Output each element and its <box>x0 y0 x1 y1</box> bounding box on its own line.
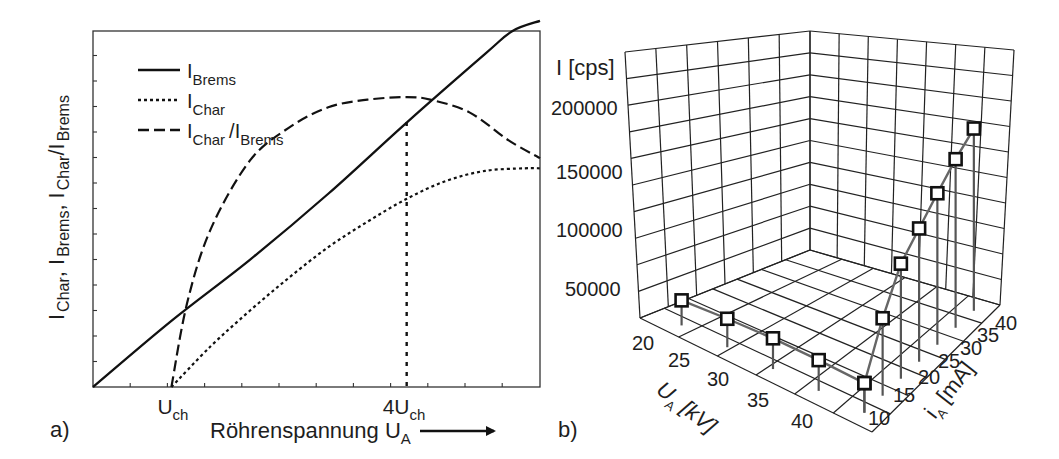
grid-line <box>679 259 842 337</box>
legend-label: IChar <box>187 90 225 118</box>
x-tick-label: 25 <box>668 349 690 371</box>
grid-line <box>810 31 1014 50</box>
x-tick-label: 35 <box>747 389 769 411</box>
x-tick-labels: 2025303540 <box>632 332 813 432</box>
data-marker <box>931 187 943 199</box>
x-axis-label: Röhrenspannung UA <box>210 418 411 447</box>
data-lines <box>682 129 974 384</box>
plot-curves <box>93 21 540 387</box>
z-tick-label: 50000 <box>565 278 621 300</box>
grid-line <box>1000 50 1014 305</box>
chart-panel-b: 50000100000150000200000 2025303540 10152… <box>551 31 1017 442</box>
grid-line <box>810 141 1007 178</box>
x-tick-label: Uch <box>157 395 188 423</box>
x-tick-label: 20 <box>632 332 654 354</box>
legend-label: IBrems <box>187 60 236 88</box>
curve-i-char-i-brems <box>171 97 540 387</box>
panel-label-a: a) <box>50 417 70 442</box>
data-marker <box>676 294 688 306</box>
grid-line <box>761 269 963 341</box>
y-tick-label: 10 <box>868 407 890 429</box>
y-axis-label: IChar, IBrems, IChar/IBrems <box>44 95 72 320</box>
chart-panel-a: IBremsICharIChar/IBrems Uch4Uch IChar, I… <box>44 21 540 447</box>
data-marker <box>968 123 980 135</box>
z-tick-labels: 50000100000150000200000 <box>551 97 623 300</box>
data-marker <box>950 153 962 165</box>
data-marker <box>721 313 733 325</box>
grid-line <box>656 49 669 307</box>
figure: IBremsICharIChar/IBrems Uch4Uch IChar, I… <box>0 0 1059 459</box>
data-marker <box>877 312 889 324</box>
data-marker <box>858 377 870 389</box>
grid-line <box>625 52 640 318</box>
grid-line <box>737 279 945 359</box>
grid-line <box>664 308 890 414</box>
curve-i-brems <box>93 21 540 387</box>
plot-frame <box>93 31 540 387</box>
y-tick-label: 15 <box>893 384 915 406</box>
grid-line <box>718 42 726 285</box>
data-marker <box>813 354 825 366</box>
grid-line <box>640 318 872 432</box>
z-tick-label: 100000 <box>556 219 623 241</box>
x-tick-label: 40 <box>791 410 813 432</box>
z-tick-label: 150000 <box>556 161 623 183</box>
grid-line <box>810 75 1011 101</box>
grid-line <box>810 162 1006 203</box>
data-marker <box>767 332 779 344</box>
panel-label-b: b) <box>558 417 578 442</box>
data-marker <box>913 222 925 234</box>
y-tick-label: 40 <box>995 312 1017 334</box>
z-axis-label: I [cps] <box>556 55 615 80</box>
legend-label: IChar/IBrems <box>187 120 284 148</box>
z-tick-label: 200000 <box>551 97 618 119</box>
legend: IBremsICharIChar/IBrems <box>138 60 284 148</box>
grid-line <box>810 53 1013 76</box>
data-marker <box>895 258 907 270</box>
grid-line <box>810 184 1004 228</box>
grid-line <box>687 45 697 295</box>
x-tick-label: 30 <box>707 368 729 390</box>
